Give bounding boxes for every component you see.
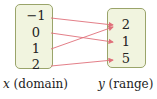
arrow-neg1-to-2 [51, 18, 113, 25]
range-label: y (range) [98, 77, 153, 91]
domain-label: x (domain) [3, 77, 68, 91]
arrow-1-to-2 [51, 27, 113, 49]
arrow-2-to-5 [51, 60, 113, 66]
arrow-0-to-1 [51, 33, 113, 42]
